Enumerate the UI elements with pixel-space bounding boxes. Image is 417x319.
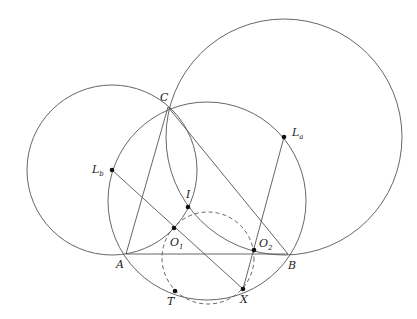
points-group xyxy=(110,135,287,294)
point-O2 xyxy=(252,248,257,253)
label-O1: O1 xyxy=(170,236,184,251)
label-La: La xyxy=(291,126,304,141)
label-B: B xyxy=(287,259,296,272)
point-T xyxy=(173,289,178,294)
label-Lb: Lb xyxy=(91,163,104,178)
circumcircle-ABC xyxy=(108,102,306,300)
segment-La-X xyxy=(243,137,284,289)
point-X xyxy=(241,287,246,292)
segment-CB xyxy=(168,107,288,254)
label-A: A xyxy=(115,258,124,271)
label-T: T xyxy=(167,295,176,308)
label-I: I xyxy=(185,188,191,201)
label-X: X xyxy=(239,293,249,306)
point-O1 xyxy=(172,226,177,231)
geometry-diagram: CABLaLbIO1O2XT xyxy=(0,0,417,319)
point-La xyxy=(282,135,287,140)
label-C: C xyxy=(160,91,169,104)
point-I xyxy=(186,205,191,210)
circles-group xyxy=(27,19,402,304)
segment-AC xyxy=(126,107,168,254)
point-Lb xyxy=(110,168,115,173)
segments-group xyxy=(112,107,288,289)
label-O2: O2 xyxy=(259,237,273,252)
